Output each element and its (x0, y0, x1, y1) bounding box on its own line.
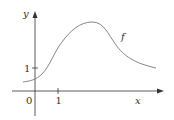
curve-f (23, 22, 156, 82)
function-graph: y x f 0 1 1 (0, 0, 174, 120)
x-axis-arrow-icon (157, 89, 164, 94)
y-tick-label: 1 (24, 63, 30, 74)
x-axis-label: x (135, 95, 141, 106)
y-axis-label: y (22, 8, 29, 19)
y-axis-arrow-icon (33, 11, 38, 18)
curve-label: f (120, 31, 127, 42)
origin-label: 0 (26, 95, 32, 106)
x-tick-label: 1 (56, 95, 62, 106)
